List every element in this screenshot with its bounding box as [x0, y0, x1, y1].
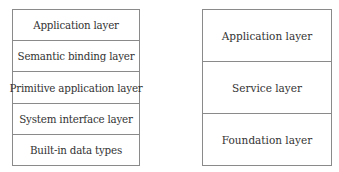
- layer-foundation: Foundation layer: [203, 114, 331, 165]
- layer-application: Application layer: [203, 10, 331, 62]
- layer-primitive-application: Primitive application layer: [13, 72, 139, 103]
- layer-application: Application layer: [13, 10, 139, 41]
- layer-semantic-binding: Semantic binding layer: [13, 41, 139, 72]
- layer-built-in-data-types: Built-in data types: [13, 135, 139, 165]
- left-layer-stack: Application layer Semantic binding layer…: [12, 9, 140, 166]
- right-layer-stack: Application layer Service layer Foundati…: [202, 9, 332, 166]
- layer-service: Service layer: [203, 62, 331, 114]
- layer-system-interface: System interface layer: [13, 104, 139, 135]
